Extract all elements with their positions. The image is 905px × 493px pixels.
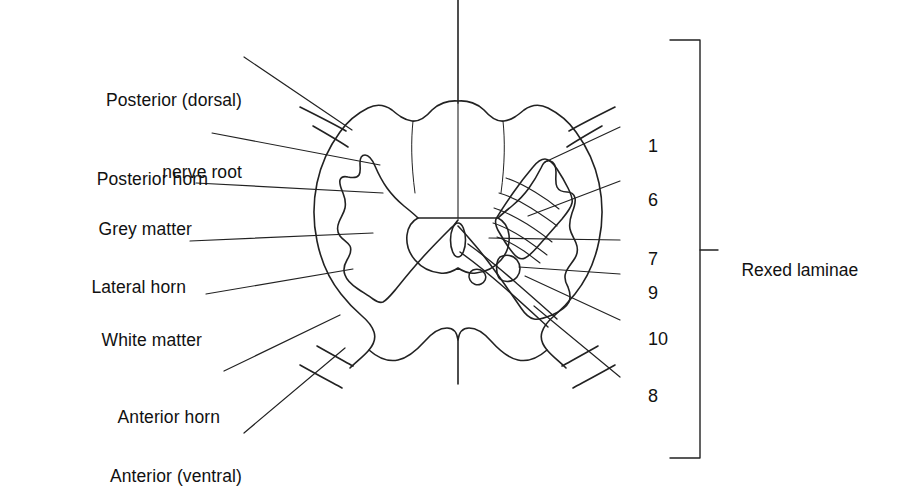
number-lamina-1-value: 1 [648, 136, 658, 156]
label-white-matter-text: White matter [30, 329, 202, 352]
grey-matter-right-wing [458, 161, 577, 319]
label-posterior-dorsal-nerve-root-line1: Posterior (dorsal) [30, 88, 242, 112]
lamina-8-boundary [460, 252, 548, 327]
label-anterior-ventral-nerve-root: Anterior (ventral) nerve root [30, 416, 242, 493]
ventral-root-fibre-right-b [573, 365, 615, 388]
label-rexed-laminae: Rexed laminae [722, 239, 858, 302]
label-anterior-ventral-nerve-root-line1: Anterior (ventral) [30, 464, 242, 488]
number-lamina-8: 8 [628, 365, 658, 428]
lamina-9-nucleus-small [469, 269, 486, 285]
posterior-septum-right [501, 121, 504, 193]
lamina-8-boundary-outer [468, 244, 557, 319]
number-lamina-9-value: 9 [648, 283, 658, 303]
rexed-laminae-bracket [670, 40, 700, 458]
lamina-stripes-block [496, 159, 573, 259]
leader-posterior-dorsal-nerve-root [244, 57, 352, 130]
ventral-root-fibre-right-a [562, 346, 598, 366]
number-lamina-10: 10 [628, 308, 668, 371]
leader-lamina-8 [534, 306, 620, 377]
number-lamina-6-value: 6 [648, 190, 658, 210]
label-rexed-laminae-text: Rexed laminae [741, 260, 858, 280]
leader-lamina-1 [545, 127, 620, 162]
central-canal [451, 223, 466, 257]
number-lamina-6: 6 [628, 169, 658, 232]
number-lamina-8-value: 8 [648, 386, 658, 406]
posterior-septum-left [412, 121, 415, 193]
leader-lamina-6 [528, 181, 620, 216]
grey-matter-left-wing [338, 155, 458, 302]
leader-lateral-horn [190, 233, 373, 241]
leader-white-matter [206, 269, 353, 294]
anterior-median-fissure [369, 328, 458, 384]
leader-lamina-9 [519, 267, 620, 274]
number-lamina-10-value: 10 [648, 329, 668, 349]
spinal-cord-figure: Posterior (dorsal) nerve root Posterior … [0, 0, 905, 493]
leader-anterior-horn [224, 315, 340, 371]
dorsal-root-fibre-right-a [569, 107, 615, 131]
anterior-median-fissure-right [458, 328, 547, 361]
leader-lamina-10 [525, 276, 620, 320]
leader-anterior-ventral-nerve-root [244, 348, 345, 433]
